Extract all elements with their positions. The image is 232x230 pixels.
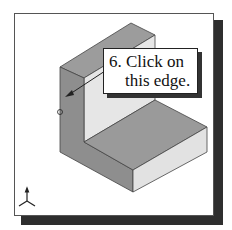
- xyz-axis-triad-icon: [19, 188, 35, 206]
- instruction-callout: 6. Click on this edge.: [103, 48, 198, 94]
- callout-line-1: 6. Click on: [109, 52, 197, 71]
- callout-line-2: this edge.: [109, 71, 197, 90]
- model-view: [0, 0, 232, 230]
